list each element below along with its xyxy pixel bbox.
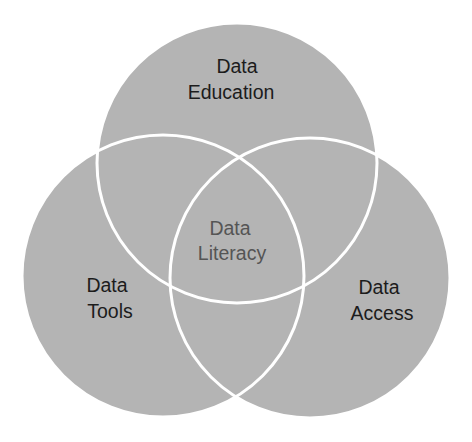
venn-svg: Data Education Data Literacy Data Tools … xyxy=(0,0,472,442)
label-literacy-line-1: Data xyxy=(209,217,250,239)
label-access-line-1: Data xyxy=(358,276,399,298)
label-access-line-2: Access xyxy=(351,302,414,324)
venn-diagram: Data Education Data Literacy Data Tools … xyxy=(0,0,472,442)
label-literacy-line-2: Literacy xyxy=(198,242,267,264)
label-education-line-1: Data xyxy=(216,55,257,77)
label-education-line-2: Education xyxy=(188,81,275,103)
label-tools-line-2: Tools xyxy=(87,300,133,322)
label-tools-line-1: Data xyxy=(86,274,127,296)
